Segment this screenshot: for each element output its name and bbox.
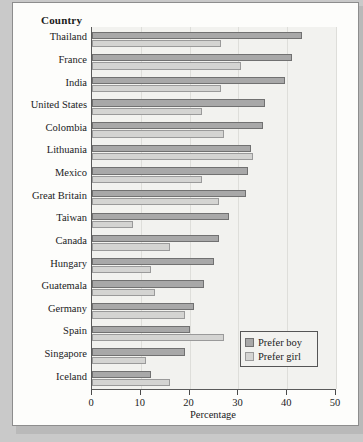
category-axis-labels: ThailandFranceIndiaUnited StatesColombia… bbox=[0, 27, 91, 389]
bar-taiwan-prefer-boy bbox=[92, 213, 229, 220]
bar-singapore-prefer-boy bbox=[92, 348, 185, 355]
bar-iceland-prefer-boy bbox=[92, 371, 151, 378]
category-label-thailand: Thailand bbox=[7, 31, 91, 42]
category-label-iceland: Iceland bbox=[7, 371, 91, 382]
x-tick bbox=[335, 390, 336, 395]
legend-swatch-icon bbox=[245, 338, 254, 347]
bar-france-prefer-boy bbox=[92, 54, 292, 61]
scanned-page: Country ThailandFranceIndiaUnited States… bbox=[0, 0, 363, 442]
bar-hungary-prefer-girl bbox=[92, 266, 151, 273]
x-tick-label: 10 bbox=[135, 397, 146, 408]
bar-france-prefer-girl bbox=[92, 62, 241, 69]
bar-thailand-prefer-girl bbox=[92, 40, 221, 47]
x-tick-label: 40 bbox=[281, 397, 292, 408]
x-tick-label: 20 bbox=[183, 397, 194, 408]
bar-lithuania-prefer-boy bbox=[92, 145, 251, 152]
chart-legend: Prefer boyPrefer girl bbox=[240, 331, 318, 367]
bar-colombia-prefer-girl bbox=[92, 130, 224, 137]
bar-india-prefer-girl bbox=[92, 85, 221, 92]
legend-item-prefer-boy: Prefer boy bbox=[245, 335, 313, 349]
category-label-mexico: Mexico bbox=[7, 167, 91, 178]
bar-iceland-prefer-girl bbox=[92, 379, 170, 386]
bar-hungary-prefer-boy bbox=[92, 258, 214, 265]
bar-lithuania-prefer-girl bbox=[92, 153, 253, 160]
x-tick bbox=[237, 390, 238, 395]
bar-canada-prefer-girl bbox=[92, 243, 170, 250]
bar-thailand-prefer-boy bbox=[92, 32, 302, 39]
legend-label: Prefer girl bbox=[258, 351, 301, 362]
category-label-france: France bbox=[7, 54, 91, 65]
category-label-spain: Spain bbox=[7, 325, 91, 336]
category-label-colombia: Colombia bbox=[7, 122, 91, 133]
bar-colombia-prefer-boy bbox=[92, 122, 263, 129]
x-tick-label: 50 bbox=[330, 397, 341, 408]
category-label-hungary: Hungary bbox=[7, 258, 91, 269]
x-tick bbox=[91, 390, 92, 395]
bar-canada-prefer-boy bbox=[92, 235, 219, 242]
bar-great-britain-prefer-girl bbox=[92, 198, 219, 205]
legend-swatch-icon bbox=[245, 352, 254, 361]
bar-spain-prefer-boy bbox=[92, 326, 190, 333]
bar-mexico-prefer-girl bbox=[92, 176, 202, 183]
category-label-india: India bbox=[7, 77, 91, 88]
category-label-great-britain: Great Britain bbox=[7, 190, 91, 201]
y-axis-title: Country bbox=[41, 14, 82, 26]
x-tick bbox=[286, 390, 287, 395]
x-tick bbox=[189, 390, 190, 395]
x-tick-label: 30 bbox=[232, 397, 243, 408]
bar-india-prefer-boy bbox=[92, 77, 285, 84]
category-label-canada: Canada bbox=[7, 235, 91, 246]
legend-item-prefer-girl: Prefer girl bbox=[245, 349, 313, 363]
bar-guatemala-prefer-boy bbox=[92, 280, 204, 287]
bar-singapore-prefer-girl bbox=[92, 357, 146, 364]
bar-mexico-prefer-boy bbox=[92, 167, 248, 174]
category-label-lithuania: Lithuania bbox=[7, 144, 91, 155]
bar-germany-prefer-girl bbox=[92, 311, 185, 318]
x-axis-title: Percentage bbox=[91, 409, 335, 420]
x-tick bbox=[140, 390, 141, 395]
category-label-singapore: Singapore bbox=[7, 348, 91, 359]
gridline bbox=[336, 27, 337, 389]
bar-united-states-prefer-girl bbox=[92, 108, 202, 115]
bar-united-states-prefer-boy bbox=[92, 99, 265, 106]
category-label-united-states: United States bbox=[7, 99, 91, 110]
bar-germany-prefer-boy bbox=[92, 303, 194, 310]
bar-great-britain-prefer-boy bbox=[92, 190, 246, 197]
bar-taiwan-prefer-girl bbox=[92, 221, 133, 228]
category-label-taiwan: Taiwan bbox=[7, 212, 91, 223]
bar-spain-prefer-girl bbox=[92, 334, 224, 341]
x-tick-label: 0 bbox=[88, 397, 93, 408]
category-label-germany: Germany bbox=[7, 303, 91, 314]
legend-label: Prefer boy bbox=[258, 337, 302, 348]
category-label-guatemala: Guatemala bbox=[7, 280, 91, 291]
bar-guatemala-prefer-girl bbox=[92, 289, 155, 296]
